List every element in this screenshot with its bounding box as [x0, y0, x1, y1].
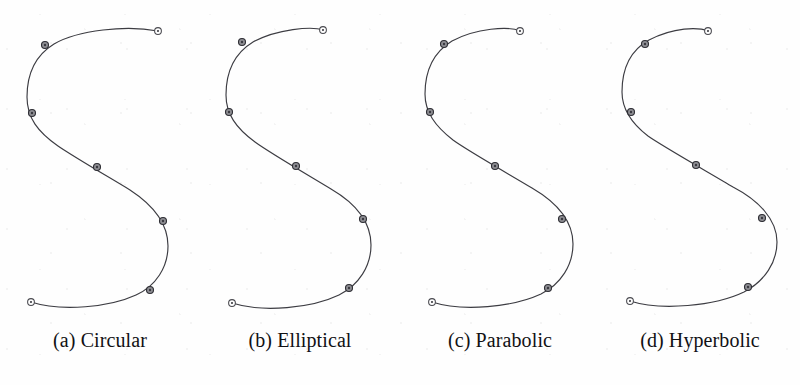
control-point[interactable] — [94, 164, 101, 171]
control-point[interactable] — [559, 216, 566, 223]
curve-panel-circular — [0, 0, 200, 320]
control-point-endpoint[interactable] — [429, 299, 436, 306]
control-point-endpoint[interactable] — [155, 28, 162, 35]
control-point[interactable] — [642, 41, 649, 48]
control-point-endpoint[interactable] — [28, 299, 35, 306]
control-point-group-elliptical — [226, 27, 367, 307]
control-point-endpoint[interactable] — [705, 28, 712, 35]
control-point[interactable] — [628, 109, 635, 116]
control-point[interactable] — [346, 285, 353, 292]
curve-panels-row — [0, 0, 800, 320]
control-point-endpoint[interactable] — [627, 298, 634, 305]
control-point-endpoint[interactable] — [517, 28, 524, 35]
caption-circular: (a) Circular — [0, 320, 200, 385]
control-point[interactable] — [693, 162, 700, 169]
control-point[interactable] — [239, 39, 246, 46]
control-point[interactable] — [759, 215, 766, 222]
panel-captions-row: (a) Circular (b) Elliptical (c) Paraboli… — [0, 320, 800, 385]
control-point-endpoint[interactable] — [320, 27, 327, 34]
control-point-endpoint[interactable] — [229, 300, 236, 307]
control-point-group-circular — [28, 28, 167, 306]
control-point-group-parabolic — [427, 28, 566, 306]
curve-panel-hyperbolic — [600, 0, 800, 320]
control-point[interactable] — [160, 218, 167, 225]
curve-panel-elliptical — [200, 0, 400, 320]
caption-elliptical: (b) Elliptical — [200, 320, 400, 385]
control-point[interactable] — [427, 109, 434, 116]
conic-spline-figure: (a) Circular (b) Elliptical (c) Paraboli… — [0, 0, 800, 385]
curve-svg-circular — [0, 0, 200, 320]
spline-curve-hyperbolic — [622, 29, 777, 307]
curve-svg-hyperbolic — [600, 0, 800, 320]
control-point[interactable] — [441, 41, 448, 48]
control-point[interactable] — [29, 110, 36, 117]
control-point[interactable] — [293, 163, 300, 170]
control-point[interactable] — [360, 216, 367, 223]
curve-panel-parabolic — [400, 0, 600, 320]
control-point[interactable] — [492, 163, 499, 170]
control-point[interactable] — [42, 42, 49, 49]
control-point[interactable] — [147, 287, 154, 294]
curve-svg-elliptical — [200, 0, 400, 320]
curve-svg-parabolic — [400, 0, 600, 320]
control-point-group-hyperbolic — [627, 28, 766, 305]
control-point[interactable] — [745, 284, 752, 291]
spline-curve-parabolic — [425, 28, 573, 307]
control-point[interactable] — [226, 109, 233, 116]
control-point[interactable] — [545, 285, 552, 292]
caption-parabolic: (c) Parabolic — [400, 320, 600, 385]
caption-hyperbolic: (d) Hyperbolic — [600, 320, 800, 385]
